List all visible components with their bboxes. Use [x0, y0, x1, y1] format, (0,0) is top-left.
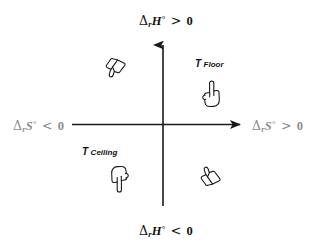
entropy-negative-label: ΔrS° < 0 — [13, 118, 64, 134]
t-ceiling-label: TCeiling — [82, 146, 117, 157]
pointing-down-finger-icon — [108, 165, 130, 193]
t-floor-subscript: Floor — [201, 60, 224, 69]
thumbs-up-icon — [197, 160, 221, 186]
enthalpy-negative-label: ΔrH° < 0 — [139, 223, 193, 239]
t-ceiling-subscript: Ceiling — [88, 148, 117, 157]
t-floor-label: TFloor — [195, 58, 224, 69]
thumbs-down-icon — [102, 58, 126, 84]
pointing-up-finger-icon — [201, 80, 223, 108]
diagram-canvas: ΔrH° > 0 ΔrH° < 0 ΔrS° < 0 ΔrS° > 0 TFlo… — [0, 0, 328, 251]
entropy-positive-label: ΔrS° > 0 — [252, 118, 303, 134]
enthalpy-positive-label: ΔrH° > 0 — [139, 13, 193, 29]
